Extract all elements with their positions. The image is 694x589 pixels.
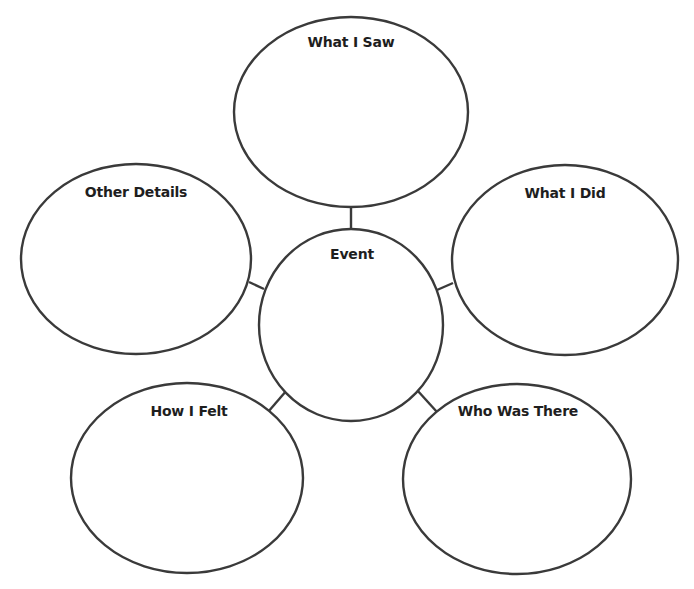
label-what-i-did: What I Did <box>525 185 606 201</box>
label-what-i-saw: What I Saw <box>308 34 395 50</box>
label-who-was-there: Who Was There <box>458 403 578 419</box>
label-other-details: Other Details <box>85 184 187 200</box>
label-how-i-felt: How I Felt <box>150 403 227 419</box>
label-event: Event <box>330 246 374 262</box>
connector-left <box>249 282 264 289</box>
bubble-map-diagram <box>0 0 694 589</box>
connector-right <box>437 283 453 290</box>
connector-bottom-left <box>268 390 287 412</box>
connector-bottom-right <box>417 390 437 412</box>
